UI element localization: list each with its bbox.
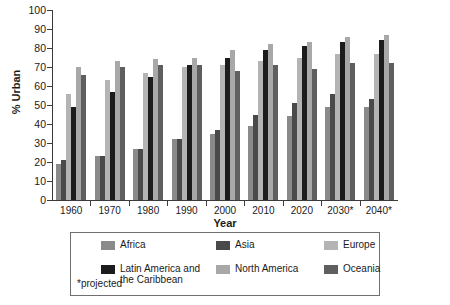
legend-label-africa: Africa: [120, 239, 146, 250]
legend-item-europe: Europe: [324, 239, 375, 250]
legend-swatch-africa: [101, 241, 115, 250]
bar: [120, 67, 125, 200]
legend-item-africa: Africa: [101, 239, 146, 250]
legend-swatch-asia: [216, 241, 230, 250]
x-tick-label: 1960: [60, 205, 82, 216]
chart-legend: Africa Asia Europe Latin America and the…: [70, 232, 380, 296]
bar-group: [210, 10, 240, 200]
y-tick-label: 20: [22, 157, 46, 167]
x-axis-title: Year: [0, 217, 450, 229]
legend-label-latin-america: Latin America and the Caribbean: [120, 263, 200, 285]
urbanization-bar-chart: % Urban 1009080706050403020100 196019701…: [0, 0, 450, 305]
legend-swatch-oceania: [324, 265, 338, 274]
x-tick-label: 1970: [99, 205, 121, 216]
y-tick-label: 100: [22, 5, 46, 15]
y-tick-label: 60: [22, 81, 46, 91]
x-tick-label: 2030*: [327, 205, 353, 216]
x-axis-line: [52, 200, 398, 201]
legend-item-asia: Asia: [216, 239, 254, 250]
legend-row-1: Africa Asia Europe: [71, 239, 379, 254]
bar-group: [56, 10, 86, 200]
bar: [389, 63, 394, 200]
legend-label-oceania: Oceania: [343, 263, 380, 274]
legend-footnote: *projected: [77, 278, 122, 289]
legend-swatch-north-america: [216, 265, 230, 274]
bar-group: [95, 10, 125, 200]
y-tick-label: 80: [22, 43, 46, 53]
bar-group: [364, 10, 394, 200]
legend-label-asia: Asia: [235, 239, 254, 250]
x-tick-label: 2000: [214, 205, 236, 216]
y-tick-label: 50: [22, 100, 46, 110]
bar: [81, 75, 86, 200]
bar: [312, 69, 317, 200]
x-tick-label: 1990: [175, 205, 197, 216]
bar-series-container: [52, 10, 398, 200]
bar-group: [172, 10, 202, 200]
bar: [273, 65, 278, 200]
bar: [350, 63, 355, 200]
y-tick-label: 0: [22, 195, 46, 205]
bar-group: [287, 10, 317, 200]
legend-label-europe: Europe: [343, 239, 375, 250]
y-tick-label: 90: [22, 24, 46, 34]
bar-group: [133, 10, 163, 200]
legend-item-oceania: Oceania: [324, 263, 380, 274]
legend-item-north-america: North America: [216, 263, 298, 274]
y-axis-tick-labels: 1009080706050403020100: [18, 10, 46, 200]
bar-group: [325, 10, 355, 200]
x-tick-label: 1980: [137, 205, 159, 216]
y-tick-label: 10: [22, 176, 46, 186]
plot-area: % Urban 1009080706050403020100 196019701…: [0, 0, 450, 218]
y-tick-label: 30: [22, 138, 46, 148]
legend-label-north-america: North America: [235, 263, 298, 274]
x-tick-label: 2010: [252, 205, 274, 216]
bar: [158, 65, 163, 200]
legend-swatch-europe: [324, 241, 338, 250]
legend-row-2: Latin America and the Caribbean North Am…: [71, 263, 379, 278]
y-tick-label: 40: [22, 119, 46, 129]
x-tick-label: 2020: [291, 205, 313, 216]
bar-group: [248, 10, 278, 200]
bar: [235, 71, 240, 200]
bar: [197, 65, 202, 200]
legend-swatch-latin-america: [101, 265, 115, 274]
y-tick-label: 70: [22, 62, 46, 72]
x-tick-label: 2040*: [366, 205, 392, 216]
